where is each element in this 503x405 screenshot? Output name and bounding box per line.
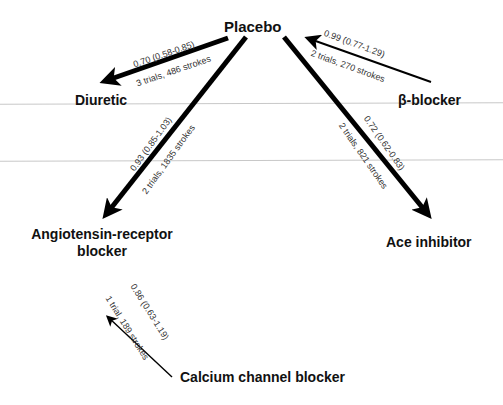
node-calcium-channel-blocker: Calcium channel blocker: [180, 369, 345, 386]
network-diagram: Placebo Diuretic β-blocker Angiotensin-r…: [0, 0, 503, 405]
arrows-layer: [0, 0, 503, 405]
node-arb-line2: blocker: [28, 243, 176, 260]
node-beta-blocker: β-blocker: [398, 92, 461, 109]
node-ace-inhibitor: Ace inhibitor: [386, 234, 472, 251]
node-diuretic: Diuretic: [75, 92, 127, 109]
node-angiotensin-receptor-blocker: Angiotensin-receptor blocker: [28, 226, 176, 260]
node-placebo: Placebo: [224, 18, 282, 35]
node-arb-line1: Angiotensin-receptor: [28, 226, 176, 243]
